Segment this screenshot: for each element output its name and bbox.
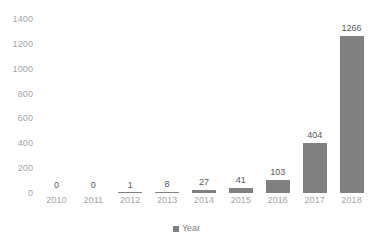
- legend-label-year: Year: [182, 224, 200, 233]
- y-axis-tick-label: 200: [18, 164, 33, 173]
- bar[interactable]: [266, 180, 290, 193]
- bar-group: 0: [75, 19, 112, 193]
- bar-group: 1: [112, 19, 149, 193]
- y-axis-tick-label: 1000: [13, 64, 33, 73]
- legend-marker-year-icon: [173, 226, 179, 232]
- x-axis-tick-label: 2017: [304, 196, 324, 205]
- bar-group: 0: [38, 19, 75, 193]
- x-axis-tick-label: 2013: [157, 196, 177, 205]
- bar-value-label: 0: [54, 181, 59, 190]
- y-axis-tick-label: 1400: [13, 15, 33, 24]
- bar-value-label: 1266: [342, 24, 362, 33]
- bar-chart: 0200400600800100012001400 00182741103404…: [0, 0, 373, 244]
- y-axis-tick-label: 400: [18, 139, 33, 148]
- x-axis-tick-label: 2015: [231, 196, 251, 205]
- bar-group: 103: [259, 19, 296, 193]
- bar-value-label: 27: [199, 178, 209, 187]
- bar-group: 27: [186, 19, 223, 193]
- y-axis-tick-label: 1200: [13, 39, 33, 48]
- x-axis-tick-label: 2011: [83, 196, 103, 205]
- x-axis-tick-label: 2014: [194, 196, 214, 205]
- x-axis-tick-label: 2016: [268, 196, 288, 205]
- bar-value-label: 103: [270, 168, 285, 177]
- y-axis: 0200400600800100012001400: [0, 0, 36, 244]
- chart-legend: Year: [0, 224, 373, 233]
- bar[interactable]: [155, 192, 179, 193]
- y-axis-tick-label: 0: [28, 189, 33, 198]
- bar-group: 1266: [333, 19, 370, 193]
- bar[interactable]: [229, 188, 253, 193]
- y-axis-tick-label: 600: [18, 114, 33, 123]
- bar-group: 404: [296, 19, 333, 193]
- x-axis-tick-label: 2010: [46, 196, 66, 205]
- y-axis-tick-label: 800: [18, 89, 33, 98]
- bar[interactable]: [118, 192, 142, 193]
- x-axis-tick-label: 2012: [120, 196, 140, 205]
- bar[interactable]: [303, 143, 327, 193]
- x-axis: 201020112012201320142015201620172018: [38, 196, 370, 212]
- bar-value-label: 1: [128, 181, 133, 190]
- bar-group: 8: [149, 19, 186, 193]
- x-axis-tick-label: 2018: [341, 196, 361, 205]
- bar-value-label: 0: [91, 181, 96, 190]
- bar-value-label: 404: [307, 131, 322, 140]
- bar[interactable]: [340, 36, 364, 193]
- bar-value-label: 41: [236, 176, 246, 185]
- bar-value-label: 8: [165, 180, 170, 189]
- bar[interactable]: [192, 190, 216, 193]
- bar-group: 41: [222, 19, 259, 193]
